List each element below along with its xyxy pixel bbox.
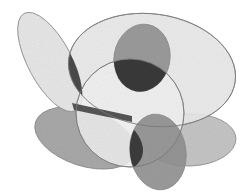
abstract-ellipses-drawing [0,0,249,194]
